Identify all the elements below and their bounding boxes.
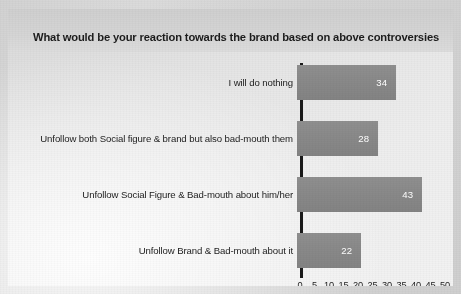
x-axis-tick-labels: 0 5 10 15 20 25 30 35 40 45 50 [300,280,450,286]
bar-unfollow-both-social-figure-and-brand[interactable]: 28 [297,121,378,156]
bar-track: 34 [297,54,453,110]
chart-figure: What would be your reaction towards the … [8,9,453,286]
x-tick-30: 30 [382,280,392,286]
bar-track: 22 [297,222,453,278]
bar-unfollow-brand-bad-mouth[interactable]: 22 [297,233,361,268]
category-label: Unfollow Brand & Bad-mouth about it [8,245,297,256]
category-label: I will do nothing [8,77,297,88]
x-tick-0: 0 [297,280,302,286]
bar-row: Unfollow Brand & Bad-mouth about it 22 [8,222,453,278]
x-tick-5: 5 [312,280,317,286]
chart-title: What would be your reaction towards the … [33,31,439,43]
scanned-page: What would be your reaction towards the … [0,0,461,294]
x-tick-10: 10 [324,280,334,286]
bar-i-will-do-nothing[interactable]: 34 [297,65,396,100]
x-tick-40: 40 [411,280,421,286]
bar-value-label: 28 [358,133,369,144]
bar-row: Unfollow both Social figure & brand but … [8,110,453,166]
category-label: Unfollow Social Figure & Bad-mouth about… [8,189,297,200]
x-tick-45: 45 [425,280,435,286]
bar-unfollow-social-figure-bad-mouth[interactable]: 43 [297,177,422,212]
x-tick-50: 50 [440,280,450,286]
x-tick-25: 25 [367,280,377,286]
plot-area: I will do nothing 34 Unfollow both Socia… [8,52,453,286]
bar-row: Unfollow Social Figure & Bad-mouth about… [8,166,453,222]
bar-value-label: 22 [341,245,352,256]
category-label: Unfollow both Social figure & brand but … [8,133,297,144]
bar-row: I will do nothing 34 [8,54,453,110]
bar-track: 43 [297,166,453,222]
x-tick-15: 15 [338,280,348,286]
bar-value-label: 34 [376,77,387,88]
x-tick-35: 35 [396,280,406,286]
bar-track: 28 [297,110,453,166]
x-tick-20: 20 [353,280,363,286]
bar-value-label: 43 [402,189,413,200]
